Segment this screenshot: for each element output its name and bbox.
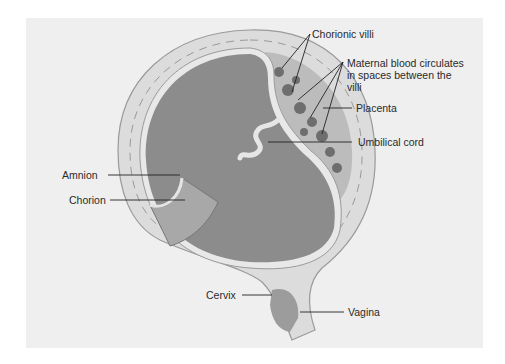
- label-maternal-blood: Maternal blood circulates in spaces betw…: [347, 57, 467, 93]
- label-chorionic-villi: Chorionic villi: [312, 28, 374, 40]
- label-chorion: Chorion: [69, 194, 106, 206]
- label-cervix: Cervix: [206, 289, 236, 301]
- label-vagina: Vagina: [348, 306, 380, 318]
- uterus-illustration: [0, 0, 505, 364]
- label-placenta: Placenta: [356, 102, 397, 114]
- label-umbilical-cord: Umbilical cord: [358, 136, 424, 148]
- label-amnion: Amnion: [62, 169, 98, 181]
